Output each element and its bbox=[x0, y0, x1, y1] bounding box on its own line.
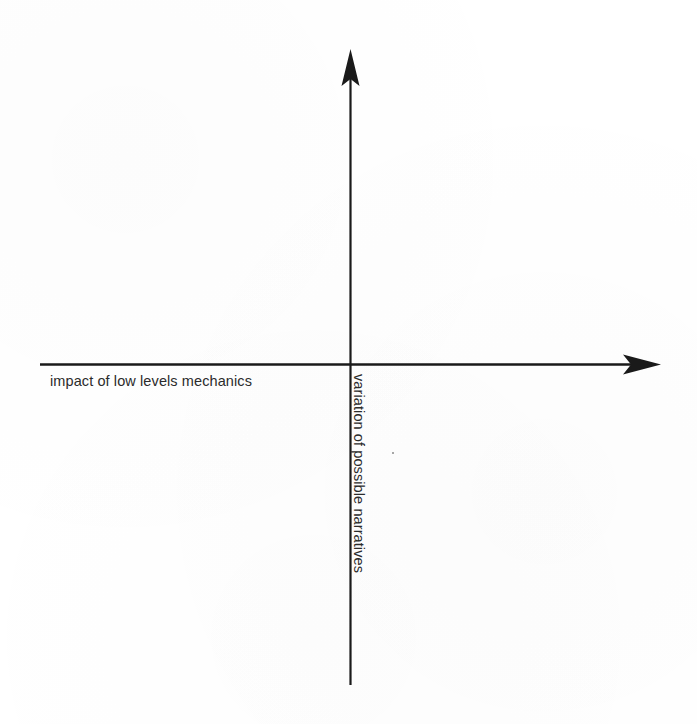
x-axis-label: impact of low levels mechanics bbox=[50, 374, 252, 389]
figure-canvas: impact of low levels mechanics variation… bbox=[0, 0, 697, 724]
scan-speck bbox=[392, 452, 394, 454]
axes-diagram bbox=[0, 0, 697, 724]
y-axis-label: variation of possible narratives bbox=[351, 374, 366, 573]
